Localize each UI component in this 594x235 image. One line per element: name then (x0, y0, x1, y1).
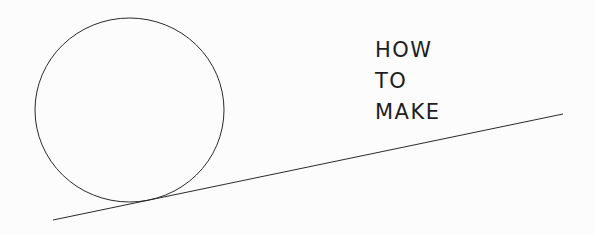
circle-shape (35, 18, 224, 202)
title-line-1: HOW (375, 35, 441, 66)
illustration (0, 0, 594, 235)
title-line-3: MAKE (375, 97, 441, 128)
title-line-2: TO (375, 66, 441, 97)
slope-line (53, 114, 563, 220)
title-text: HOW TO MAKE (375, 35, 441, 128)
